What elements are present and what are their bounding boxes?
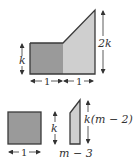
height-2k-arrow: 2k	[97, 11, 112, 73]
top-figure: k 2k 1 1	[19, 10, 112, 87]
height-2k-label: 2k	[97, 37, 112, 50]
square-region	[8, 112, 41, 144]
square-width-label: 1	[21, 147, 27, 158]
dark-square-region	[30, 43, 63, 74]
km2-height-label: k(m − 2)	[84, 113, 133, 126]
bottom-height-k-arrow: k	[51, 112, 58, 144]
light-trapezoid-region	[63, 10, 95, 74]
width-1-left-label: 1	[44, 76, 50, 87]
thin-trapezoid-region	[70, 100, 80, 144]
width-arrows-top: 1 1	[31, 76, 93, 87]
width-1-right-label: 1	[76, 76, 82, 87]
bottom-right-trapezoid: k(m − 2) m − 3	[59, 100, 133, 160]
height-k-arrow: k	[19, 44, 26, 74]
bottom-height-k-label: k	[51, 122, 58, 135]
height-k-label: k	[19, 54, 26, 67]
bottom-left-square: 1	[8, 112, 41, 158]
m3-width-label: m − 3	[59, 147, 93, 160]
area-diagram: k 2k 1 1 1 k k(m − 2)	[0, 0, 137, 168]
